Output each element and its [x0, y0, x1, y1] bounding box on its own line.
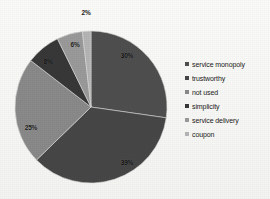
legend-swatch-icon: [185, 132, 189, 136]
slice-percentage-label: 30%: [121, 52, 133, 59]
legend-item-label: service delivery: [192, 116, 239, 125]
legend-swatch-icon: [185, 76, 189, 80]
slice-percentage-label: 25%: [25, 124, 37, 131]
legend-item-label: service monopoly: [192, 60, 245, 69]
legend-swatch-icon: [185, 118, 189, 122]
legend-item-label: simplicity: [192, 102, 219, 111]
legend-item: service delivery: [185, 113, 270, 127]
slice-percentage-label: 2%: [82, 9, 91, 16]
legend-item-label: trustworthy: [192, 74, 225, 83]
legend-item: not used: [185, 85, 270, 99]
legend-swatch-icon: [185, 104, 189, 108]
legend-item: simplicity: [185, 99, 270, 113]
pie-chart-plot-area: 30%39%25%8%6%2%: [0, 0, 180, 199]
pie-slice: [91, 31, 167, 118]
legend-item: service monopoly: [185, 57, 270, 71]
chart-legend: service monopolytrustworthynot usedsimpl…: [185, 57, 270, 141]
legend-swatch-icon: [185, 62, 189, 66]
legend-item-label: not used: [192, 88, 218, 97]
legend-swatch-icon: [185, 90, 189, 94]
legend-item: trustworthy: [185, 71, 270, 85]
slice-percentage-label: 8%: [44, 58, 53, 65]
slice-percentage-label: 39%: [121, 159, 133, 166]
pie-chart-svg: [0, 0, 180, 199]
pie-chart-figure: 30%39%25%8%6%2% service monopolytrustwor…: [0, 0, 270, 199]
slice-percentage-label: 6%: [71, 41, 80, 48]
pie-slices-group: [15, 31, 167, 183]
legend-item: coupon: [185, 127, 270, 141]
legend-item-label: coupon: [192, 130, 214, 139]
